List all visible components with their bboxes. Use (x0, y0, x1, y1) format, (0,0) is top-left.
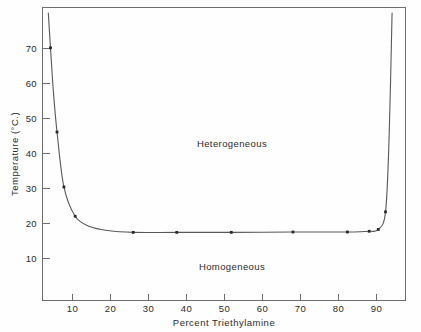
y-tick-label-20: 20 (26, 218, 37, 229)
data-point (49, 46, 52, 49)
x-tick-label-30: 30 (143, 303, 154, 314)
data-point (74, 215, 77, 218)
solubility-curve (48, 13, 392, 233)
y-tick-label-50: 50 (26, 113, 37, 124)
data-point (368, 230, 371, 233)
x-tick-label-40: 40 (181, 303, 192, 314)
phase-diagram-plot: 70 60 50 40 30 20 10 10 20 30 40 50 60 7… (0, 0, 421, 332)
y-tick-label-60: 60 (26, 78, 37, 89)
y-tick-label-70: 70 (26, 43, 37, 54)
y-tick-labels: 70 60 50 40 30 20 10 (26, 43, 37, 264)
data-point (63, 186, 66, 189)
data-point (377, 228, 380, 231)
x-axis-ticks (73, 294, 377, 301)
x-tick-label-50: 50 (219, 303, 230, 314)
region-label-homogeneous: Homogeneous (199, 261, 265, 272)
data-point (292, 231, 295, 234)
x-tick-label-70: 70 (295, 303, 306, 314)
x-tick-label-90: 90 (371, 303, 382, 314)
x-tick-label-80: 80 (333, 303, 344, 314)
y-tick-label-30: 30 (26, 183, 37, 194)
data-point (346, 231, 349, 234)
chart-figure: 70 60 50 40 30 20 10 10 20 30 40 50 60 7… (0, 0, 421, 332)
y-axis-title: Temperature (°C.) (9, 112, 20, 196)
x-tick-label-20: 20 (105, 303, 116, 314)
y-axis-ticks (43, 49, 50, 259)
data-point (56, 131, 59, 134)
y-tick-label-40: 40 (26, 148, 37, 159)
x-tick-label-10: 10 (67, 303, 78, 314)
x-tick-labels: 10 20 30 40 50 60 70 80 90 (67, 303, 382, 314)
data-point (132, 231, 135, 234)
data-point (230, 231, 233, 234)
x-axis-title: Percent Triethylamine (173, 317, 275, 328)
x-tick-label-60: 60 (257, 303, 268, 314)
data-point (384, 210, 387, 213)
plot-frame (43, 8, 406, 301)
y-tick-label-10: 10 (26, 253, 37, 264)
region-label-heterogeneous: Heterogeneous (197, 138, 267, 149)
data-point (175, 231, 178, 234)
